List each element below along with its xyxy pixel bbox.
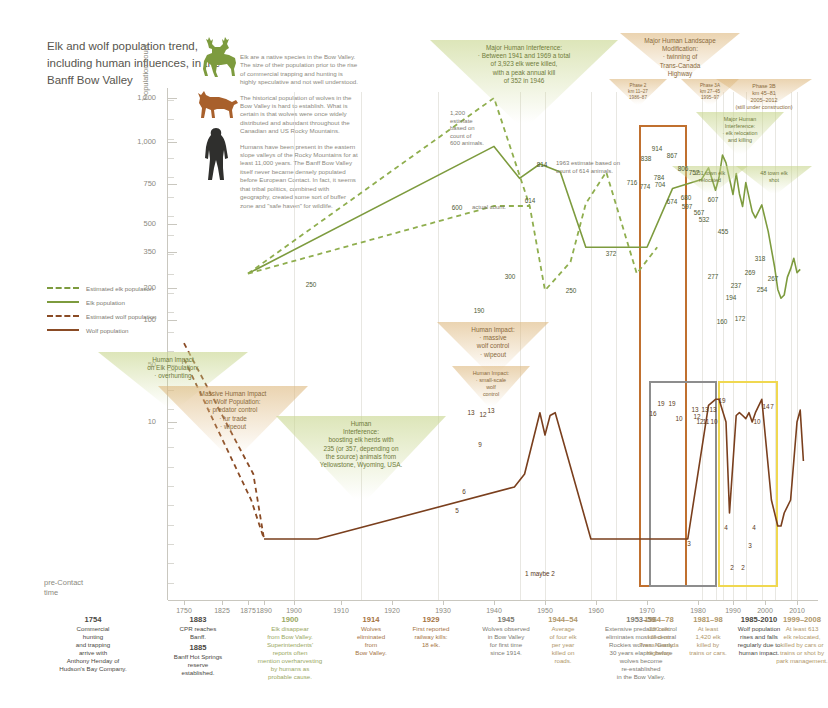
data-label: 250 bbox=[566, 287, 577, 294]
timeline-text: 280 elk killed on Trans-Canada Highway. bbox=[639, 625, 678, 656]
timeline-year: 1914 bbox=[340, 616, 402, 624]
data-label: 13 bbox=[701, 406, 708, 413]
timeline-entry-1999-2008: 1999–2008At least 613 elk relocated, kil… bbox=[761, 616, 828, 665]
timeline-entry-1900: 1900Elk disappear from Bow Valley. Super… bbox=[236, 616, 344, 681]
data-label: 19 bbox=[668, 400, 675, 407]
data-label: 11 bbox=[703, 418, 710, 425]
data-label: 9 bbox=[478, 441, 482, 448]
data-label: 5 bbox=[455, 507, 459, 514]
data-label: 190 bbox=[474, 307, 485, 314]
callout-text: Human Impact on Elk Population: · overhu… bbox=[98, 352, 248, 381]
timeline-year: 1883 bbox=[155, 616, 241, 624]
data-label: 814 bbox=[537, 161, 548, 168]
timeline-text: Elk disappear from Bow Valley. Superinte… bbox=[258, 625, 322, 680]
data-label: 269 bbox=[745, 269, 756, 276]
callout-text: Human Impact: · massive wolf control · w… bbox=[437, 322, 549, 359]
data-label: 2 bbox=[730, 564, 734, 571]
data-label: 267 bbox=[768, 275, 779, 282]
data-label: 914 bbox=[652, 145, 663, 152]
data-label: 16 bbox=[649, 410, 656, 417]
callout-text: 48 town elk shot bbox=[736, 166, 812, 184]
data-label: 1963 estimate based on count of 614 anim… bbox=[556, 160, 620, 175]
callout-human-interference-elk-herds: Human Interference: boosting elk herds w… bbox=[276, 416, 446, 506]
data-label: 867 bbox=[667, 152, 678, 159]
timeline-year: 1900 bbox=[236, 616, 344, 624]
callout-major-human-interference-relocation: Major Human Interference: · elk relocati… bbox=[696, 112, 784, 158]
data-label: 172 bbox=[735, 315, 746, 322]
infographic-root: Elk and wolf population trend, including… bbox=[0, 0, 828, 708]
data-label: 13 bbox=[487, 407, 494, 414]
timeline-year: 1929 bbox=[395, 616, 467, 624]
callout-text: Human Impact: · small-scale wolf control bbox=[452, 366, 530, 398]
callout-text: Human Interference: boosting elk herds w… bbox=[276, 416, 446, 469]
data-label: 1 maybe 2 bbox=[525, 570, 555, 577]
timeline-text-secondary: Banff Hot Springs reserve established. bbox=[174, 653, 222, 676]
callout-text: Major Human Landscape Modification: · tw… bbox=[620, 33, 740, 78]
data-label: 597 bbox=[682, 203, 693, 210]
timeline-year: 1754 bbox=[33, 616, 153, 624]
callout-phase-3b: Phase 3B km 45–81 2005–2012 (still under… bbox=[716, 79, 812, 111]
timeline-text: Commercial hunting and trapping arrive w… bbox=[59, 625, 126, 672]
data-label: 250 bbox=[306, 281, 317, 288]
data-label: 13 bbox=[467, 409, 474, 416]
data-label: 838 bbox=[641, 155, 652, 162]
data-label: 607 bbox=[708, 196, 719, 203]
data-label: 784 bbox=[654, 174, 665, 181]
data-label: 318 bbox=[755, 255, 766, 262]
data-label: 300 bbox=[505, 273, 516, 280]
data-label: 2 bbox=[741, 564, 745, 571]
data-label: 567 bbox=[694, 209, 705, 216]
data-label: 3 bbox=[687, 540, 691, 547]
data-label: actual count. bbox=[472, 204, 506, 212]
data-label: 4 bbox=[724, 524, 728, 531]
data-label: 10 bbox=[753, 418, 760, 425]
callout-text: Phase 2 km 11–27 1986–87 bbox=[609, 79, 667, 101]
timeline-year: 1999–2008 bbox=[761, 616, 828, 624]
data-label: 532 bbox=[699, 216, 710, 223]
timeline-text: Wolves observed in Bow Valley for first … bbox=[482, 625, 529, 656]
data-label: 372 bbox=[606, 250, 617, 257]
data-label: 10 bbox=[710, 418, 717, 425]
timeline-entry-1883-1885: 1883CPR reaches Banff.1885Banff Hot Spri… bbox=[155, 616, 241, 677]
data-label: 704 bbox=[655, 181, 666, 188]
timeline-text: Average of four elk per year killed on r… bbox=[549, 625, 576, 664]
data-label: 19 bbox=[718, 397, 725, 404]
data-label: 614 bbox=[525, 197, 536, 204]
timeline-text: At least 613 elk relocated, killed by ca… bbox=[776, 625, 828, 664]
data-label: 716 bbox=[627, 179, 638, 186]
data-label: 237 bbox=[731, 282, 742, 289]
data-label: 254 bbox=[757, 286, 768, 293]
timeline-entry-1754: 1754Commercial hunting and trapping arri… bbox=[33, 616, 153, 673]
timeline-text: Wolves eliminated from Bow Valley. bbox=[355, 625, 386, 656]
data-label: 455 bbox=[718, 228, 729, 235]
data-label: 1,200 estimate based on count of 600 ani… bbox=[450, 110, 484, 148]
callout-human-impact-small-scale-wolf-control: Human Impact: · small-scale wolf control bbox=[452, 366, 530, 410]
timeline-year-secondary: 1885 bbox=[155, 644, 241, 652]
timeline-text: First reported railway kills: 18 elk. bbox=[413, 625, 450, 648]
data-label: 10 bbox=[675, 415, 682, 422]
data-label: 277 bbox=[708, 273, 719, 280]
data-label: 12 bbox=[479, 411, 486, 418]
timeline-entry-1914: 1914Wolves eliminated from Bow Valley. bbox=[340, 616, 402, 657]
callout-text: Major Human Interference: · elk relocati… bbox=[696, 112, 784, 144]
callout-major-human-landscape-modification: Major Human Landscape Modification: · tw… bbox=[620, 33, 740, 83]
data-label: 14 bbox=[762, 403, 769, 410]
callout-text: Phase 3B km 45–81 2005–2012 (still under… bbox=[716, 79, 812, 111]
data-label: 160 bbox=[717, 318, 728, 325]
data-label: 774 bbox=[640, 183, 651, 190]
data-label: 19 bbox=[657, 400, 664, 407]
data-label: 680 bbox=[681, 194, 692, 201]
data-label: 13 bbox=[691, 406, 698, 413]
data-label: 3 bbox=[748, 542, 752, 549]
series-estimated-elk-lower bbox=[248, 206, 530, 274]
data-label: 600 bbox=[452, 204, 463, 211]
timeline-text: CPR reaches Banff. bbox=[180, 625, 217, 640]
callout-text: Major Human Interference: · Between 1941… bbox=[430, 40, 618, 85]
timeline-entry-1929: 1929First reported railway kills: 18 elk… bbox=[395, 616, 467, 649]
data-label: 674 bbox=[667, 198, 678, 205]
data-label: 13 bbox=[709, 406, 716, 413]
data-label: 6 bbox=[462, 488, 466, 495]
data-label: 4 bbox=[752, 524, 756, 531]
callout-elk-shot-48: 48 town elk shot bbox=[736, 166, 812, 196]
data-label: 194 bbox=[726, 294, 737, 301]
